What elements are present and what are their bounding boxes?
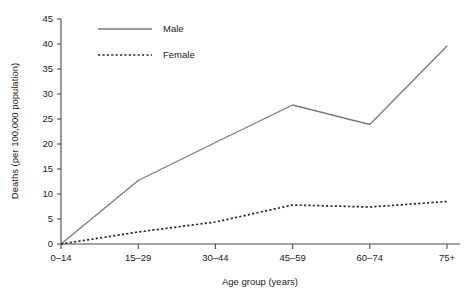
y-tick-label: 0 (48, 238, 53, 249)
y-tick-label: 10 (42, 188, 53, 199)
y-axis-ticks: 051015202530354045 (42, 13, 61, 249)
x-tick-label: 75+ (439, 252, 456, 263)
x-axis-title: Age group (years) (222, 276, 298, 287)
x-tick-label: 15–29 (125, 252, 151, 263)
y-tick-label: 5 (48, 213, 53, 224)
legend: Male Female (98, 23, 195, 60)
x-axis-ticks: 0–1415–2930–4445–5960–7475+ (50, 244, 455, 263)
legend-label-female: Female (163, 49, 195, 60)
x-tick-label: 30–44 (202, 252, 228, 263)
x-tick-label: 45–59 (279, 252, 305, 263)
series-line-female (61, 202, 447, 245)
y-tick-label: 40 (42, 38, 53, 49)
y-tick-label: 25 (42, 113, 53, 124)
y-tick-label: 35 (42, 63, 53, 74)
legend-label-male: Male (163, 23, 184, 34)
y-tick-label: 45 (42, 13, 53, 24)
line-chart: Deaths (per 100,000 population) 05101520… (0, 0, 471, 297)
y-tick-label: 30 (42, 88, 53, 99)
y-tick-label: 15 (42, 163, 53, 174)
y-tick-label: 20 (42, 138, 53, 149)
chart-container: Deaths (per 100,000 population) 05101520… (0, 0, 471, 297)
x-tick-label: 60–74 (357, 252, 383, 263)
x-tick-label: 0–14 (50, 252, 71, 263)
y-axis-title: Deaths (per 100,000 population) (9, 63, 20, 199)
